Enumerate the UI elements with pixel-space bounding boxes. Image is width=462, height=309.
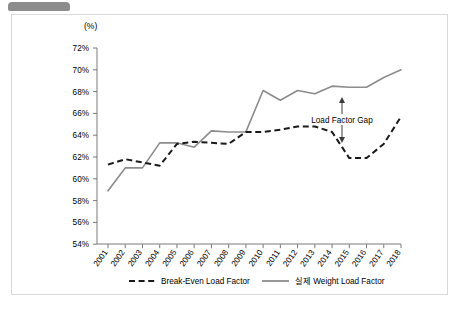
load-factor-gap-label: Load Factor Gap	[311, 116, 373, 125]
chart-svg: (%) 72% 70% 68% 66% 64% 62% 60%	[12, 15, 449, 296]
y-axis-unit-label: (%)	[84, 21, 97, 31]
chart-card: (%) 72% 70% 68% 66% 64% 62% 60%	[11, 14, 448, 295]
x-tick-label: 2007	[195, 248, 213, 268]
y-tick-label: 68%	[73, 88, 89, 97]
y-tick-label: 54%	[73, 240, 89, 249]
y-tick-label: 64%	[73, 131, 89, 140]
window-top-tab	[8, 2, 70, 11]
y-tick-label: 72%	[73, 44, 89, 53]
series-line-actual-weight-load-factor	[108, 70, 401, 191]
y-tick-label: 60%	[73, 175, 89, 184]
x-tick-label: 2008	[212, 248, 230, 268]
x-tick-label: 2017	[368, 248, 386, 268]
legend-label-actual-weight: 실제 Weight Load Factor	[295, 276, 385, 286]
legend-label-break-even: Break-Even Load Factor	[161, 277, 250, 286]
x-axis-ticks	[108, 244, 401, 248]
x-tick-label: 2014	[316, 248, 334, 268]
x-tick-label: 2001	[92, 248, 110, 268]
x-tick-label: 2002	[109, 248, 127, 268]
x-tick-label: 2015	[333, 248, 351, 268]
y-tick-label: 62%	[73, 153, 89, 162]
y-tick-label: 58%	[73, 197, 89, 206]
x-tick-label: 2003	[126, 248, 144, 268]
x-tick-label: 2012	[281, 248, 299, 268]
x-tick-label: 2009	[230, 248, 248, 268]
x-tick-label: 2016	[350, 248, 368, 268]
x-tick-label: 2018	[385, 248, 403, 268]
legend: Break-Even Load Factor 실제 Weight Load Fa…	[129, 276, 385, 286]
x-axis-tick-labels: 2001200220032004200520062007200820092010…	[92, 248, 403, 268]
y-axis-ticks: 72% 70% 68% 66% 64% 62% 60% 58% 56% 54	[73, 44, 97, 249]
x-tick-label: 2006	[178, 248, 196, 268]
y-tick-label: 56%	[73, 218, 89, 227]
line-chart: (%) 72% 70% 68% 66% 64% 62% 60%	[12, 15, 449, 296]
x-tick-label: 2010	[247, 248, 265, 268]
x-tick-label: 2004	[144, 248, 162, 268]
x-tick-label: 2013	[299, 248, 317, 268]
x-tick-label: 2011	[265, 248, 283, 268]
y-tick-label: 66%	[73, 109, 89, 118]
x-tick-label: 2005	[161, 248, 179, 268]
y-tick-label: 70%	[73, 66, 89, 75]
